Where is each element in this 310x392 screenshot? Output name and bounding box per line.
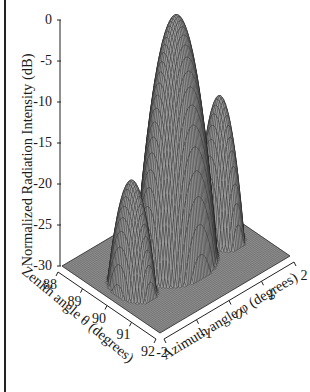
- figure-frame: 0-5-10-15-20-25-30 8889909192 -2-1012 No…: [0, 0, 310, 392]
- z-tick-label: 0: [45, 12, 52, 27]
- surface-mesh: [62, 15, 290, 334]
- z-tick-label: -15: [33, 135, 52, 150]
- surface-plot: 0-5-10-15-20-25-30 8889909192 -2-1012 No…: [0, 0, 310, 392]
- zenith-tick-label: 92: [141, 344, 155, 359]
- z-axis-title: Normalized Radiation Intensity (dB): [19, 53, 36, 266]
- z-axis: 0-5-10-15-20-25-30: [33, 12, 61, 273]
- z-tick-label: -25: [33, 217, 52, 232]
- azimuth-tick-label: 2: [301, 268, 308, 283]
- z-tick-label: -20: [33, 176, 52, 191]
- z-tick-label: -5: [40, 53, 52, 68]
- z-tick-label: -10: [33, 94, 52, 109]
